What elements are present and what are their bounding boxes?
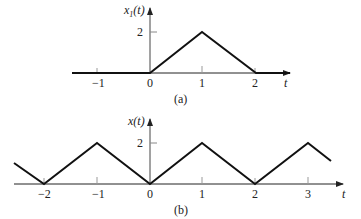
signal-x	[14, 143, 331, 184]
x-tick-label: 3	[305, 187, 311, 201]
x-tick-label: −2	[38, 187, 51, 201]
signal-x1	[72, 32, 290, 73]
x-tick-label: 1	[199, 187, 205, 201]
x-tick-label: 1	[199, 76, 205, 90]
y-tick-label: 2	[137, 25, 143, 39]
x-tick-label: 0	[147, 187, 153, 201]
x-tick-label: −1	[92, 187, 105, 201]
plot-a: x1(t) 2 −1 0 1 2 t (a)	[72, 3, 290, 106]
y-axis-label: x1(t)	[123, 3, 145, 19]
caption-a: (a)	[174, 92, 187, 106]
figure: x1(t) 2 −1 0 1 2 t (a) x(t) 2 −2 −1 0 1 …	[0, 0, 361, 219]
x-axis-label: t	[284, 76, 288, 90]
x-tick-label: 0	[147, 76, 153, 90]
x-tick-label: −1	[92, 76, 105, 90]
plot-b: x(t) 2 −2 −1 0 1 2 3 t (b)	[14, 114, 346, 217]
y-axis-label: x(t)	[127, 114, 145, 128]
x-tick-label: 2	[252, 187, 258, 201]
x-tick-label: 2	[252, 76, 258, 90]
y-tick-label: 2	[137, 136, 143, 150]
x-axis-label: t	[342, 187, 346, 201]
caption-b: (b)	[174, 203, 188, 217]
